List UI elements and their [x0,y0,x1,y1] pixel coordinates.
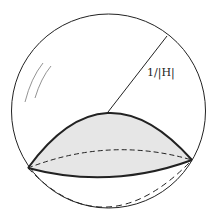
sphere-cap-diagram: 1/|H| [0,0,215,222]
radius-label: 1/|H| [147,66,175,79]
highlight-stroke-1 [25,63,43,102]
diagram-canvas [0,0,215,222]
